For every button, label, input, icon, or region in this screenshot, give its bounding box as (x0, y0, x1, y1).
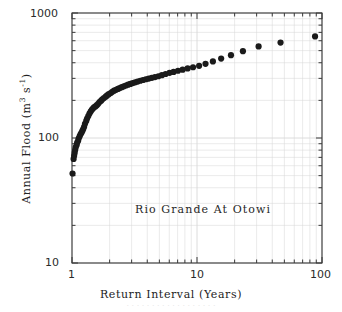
y-tick-label-100: 100 (38, 131, 59, 144)
data-point (256, 43, 262, 49)
data-point (240, 48, 246, 54)
x-tick-label-1: 1 (68, 268, 75, 281)
gridlines-group (72, 13, 322, 263)
y-axis-title-part2: s (20, 87, 33, 97)
data-point (210, 58, 216, 64)
bottom-ghost-text: · · · · · · · · · · · · · · · · · · (0, 301, 342, 310)
figure-container: 1000 100 10 1 10 100 Return Interval (Ye… (0, 0, 342, 312)
plot-annotation-label: Rio Grande At Otowi (135, 203, 271, 216)
y-axis-title-part1: Annual Flood (m (20, 102, 33, 203)
data-point (185, 65, 191, 71)
data-point (218, 55, 224, 61)
data-points-group (69, 33, 318, 176)
x-tick-label-100: 100 (310, 268, 331, 281)
y-axis-title-part3: ) (20, 73, 33, 78)
data-point (190, 64, 196, 70)
data-point (277, 39, 283, 45)
y-axis-title-exp2: -1 (18, 78, 27, 87)
data-point (69, 170, 75, 176)
data-point (312, 33, 318, 39)
y-axis-title: Annual Flood (m3 s-1) (20, 59, 33, 219)
y-tick-label-1000: 1000 (30, 7, 58, 20)
y-axis-title-exp1: 3 (18, 97, 27, 102)
data-point (202, 61, 208, 67)
data-point (196, 63, 202, 69)
y-tick-label-10: 10 (45, 256, 59, 269)
x-tick-label-10: 10 (190, 268, 204, 281)
data-point (228, 52, 234, 58)
x-axis-title: Return Interval (Years) (0, 288, 342, 301)
